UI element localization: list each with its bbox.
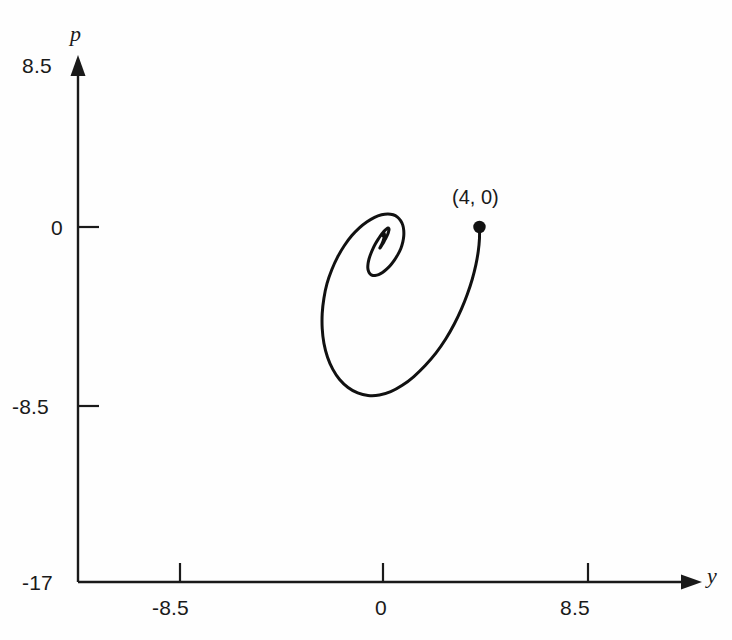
start-point-marker bbox=[473, 221, 485, 233]
vertical-axis-name: p bbox=[70, 21, 81, 47]
vertical-tick-label-8-5: 8.5 bbox=[22, 54, 52, 78]
horizontal-tick-label-8-5: 8.5 bbox=[560, 596, 590, 620]
horizontal-tick-label-0: 0 bbox=[375, 596, 387, 620]
vertical-axis-arrowhead bbox=[71, 55, 86, 76]
horizontal-tick-label-minus-8-5: -8.5 bbox=[152, 596, 189, 620]
plot-canvas bbox=[0, 0, 732, 640]
vertical-tick-label-minus-8-5: -8.5 bbox=[12, 395, 49, 419]
vertical-tick-label-0: 0 bbox=[51, 216, 63, 240]
horizontal-axis-name: y bbox=[707, 563, 717, 589]
trajectory-curve bbox=[322, 214, 480, 396]
vertical-tick-label-minus-17: -17 bbox=[22, 571, 53, 595]
phase-plane-figure: 8.5 0 -8.5 -17 -8.5 0 8.5 p y (4, 0) bbox=[0, 0, 732, 640]
start-point-label: (4, 0) bbox=[452, 186, 499, 209]
horizontal-axis-arrowhead bbox=[681, 575, 702, 590]
